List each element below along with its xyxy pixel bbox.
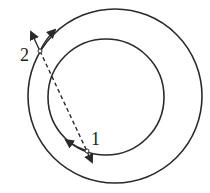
point-1-label: 1 bbox=[91, 129, 100, 149]
point-2-marker bbox=[38, 49, 42, 53]
dashed-line bbox=[40, 51, 92, 162]
point-1-marker bbox=[85, 149, 89, 153]
inner-tangent-arrow-icon bbox=[66, 140, 87, 151]
inner-circle bbox=[48, 39, 164, 155]
orbit-diagram: 1 2 bbox=[0, 0, 210, 193]
dashed-arrow-up-at-2 bbox=[31, 32, 40, 51]
outer-circle bbox=[28, 9, 202, 183]
point-2-label: 2 bbox=[20, 45, 29, 65]
